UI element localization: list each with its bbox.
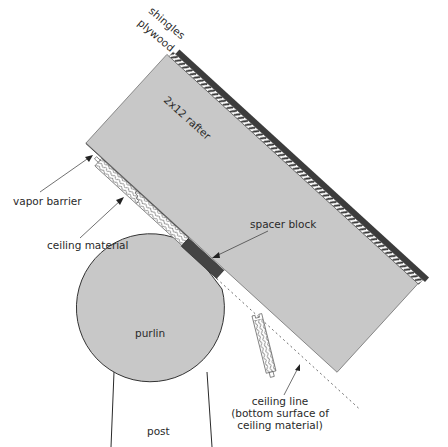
label-spacer-block: spacer block (250, 218, 317, 230)
label-ceiling-line-detail-1: (bottom surface of (231, 407, 329, 419)
leader-ceiling-material (80, 197, 124, 238)
roof-framing-diagram: shingles plywood 2x12 rafter vapor barri… (0, 0, 448, 447)
label-vapor-barrier: vapor barrier (13, 195, 82, 207)
label-post: post (147, 425, 170, 437)
ceiling-board-detail (252, 314, 277, 379)
label-purlin: purlin (135, 327, 165, 339)
label-ceiling-line-detail-2: ceiling material) (237, 419, 323, 431)
label-ceiling-line: ceiling line (252, 395, 309, 407)
label-ceiling-material: ceiling material (47, 239, 128, 251)
leader-ceiling-line (284, 364, 300, 395)
leader-vapor-barrier (40, 155, 93, 192)
